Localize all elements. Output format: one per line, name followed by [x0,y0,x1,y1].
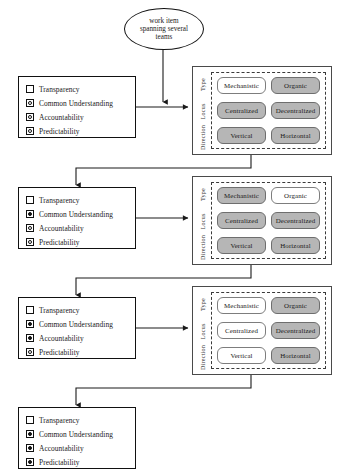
check-label: Common Understanding [39,99,113,108]
matrix-panel-stage-1: Type Locus Direction Mechanistic Organic… [192,66,332,155]
matrix-axis-labels: Type Locus Direction [195,72,211,149]
checkbox-accountability[interactable] [26,444,34,452]
check-row[interactable]: Predictability [26,124,129,138]
cell-horizontal[interactable]: Horizontal [271,237,320,254]
matrix-row-type: Mechanistic Organic [217,297,320,314]
connector-panel3-to-checklist4 [76,375,251,405]
check-row[interactable]: Accountability [26,221,129,235]
checkbox-transparency[interactable] [26,416,34,424]
check-label: Accountability [39,113,84,122]
cell-vertical[interactable]: Vertical [217,127,266,144]
matrix-panel-stage-3: Type Locus Direction Mechanistic Organic… [192,286,332,375]
check-label: Transparency [39,306,80,315]
matrix-panel-stage-2: Type Locus Direction Mechanistic Organic… [192,176,332,265]
check-row[interactable]: Predictability [26,235,129,249]
cell-mechanistic[interactable]: Mechanistic [217,187,266,204]
cell-decentralized[interactable]: Decentralized [271,102,320,119]
check-label: Transparency [39,196,80,205]
cell-mechanistic[interactable]: Mechanistic [217,77,266,94]
check-row[interactable]: Common Understanding [26,317,129,331]
matrix-row-locus: Centralized Decentralized [217,322,320,339]
check-label: Common Understanding [39,210,113,219]
matrix-row-direction: Vertical Horizontal [217,347,320,364]
matrix-grid: Mechanistic Organic Centralized Decentra… [211,292,326,369]
matrix-grid: Mechanistic Organic Centralized Decentra… [211,72,326,149]
axis-label-direction: Direction [199,337,206,379]
source-oval-line-2: spanning several [140,25,188,33]
check-row[interactable]: Transparency [26,193,129,207]
check-label: Predictability [39,127,80,136]
check-row[interactable]: Predictability [26,455,129,469]
checkbox-predictability[interactable] [26,238,34,246]
check-row[interactable]: Accountability [26,331,129,345]
matrix-axis-labels: Type Locus Direction [195,182,211,259]
cell-horizontal[interactable]: Horizontal [271,347,320,364]
matrix-row-type: Mechanistic Organic [217,77,320,94]
check-label: Predictability [39,238,80,247]
cell-centralized[interactable]: Centralized [217,212,266,229]
axis-label-direction: Direction [199,227,206,269]
check-label: Accountability [39,444,84,453]
check-label: Transparency [39,85,80,94]
source-oval-line-3: teams [156,33,173,41]
matrix-row-locus: Centralized Decentralized [217,212,320,229]
check-label: Predictability [39,458,80,467]
checklist-stage-4: Transparency Common Understanding Accoun… [18,407,136,469]
cell-vertical[interactable]: Vertical [217,347,266,364]
cell-organic[interactable]: Organic [271,187,320,204]
source-oval-line-1: work item [149,17,178,25]
checkbox-transparency[interactable] [26,306,34,314]
check-label: Transparency [39,416,80,425]
checkbox-common-understanding[interactable] [26,210,34,218]
checkbox-accountability[interactable] [26,224,34,232]
checkbox-predictability[interactable] [26,458,34,466]
matrix-row-type: Mechanistic Organic [217,187,320,204]
check-row[interactable]: Common Understanding [26,96,129,110]
cell-organic[interactable]: Organic [271,297,320,314]
check-row[interactable]: Transparency [26,82,129,96]
check-label: Accountability [39,334,84,343]
checkbox-common-understanding[interactable] [26,430,34,438]
check-row[interactable]: Transparency [26,413,129,427]
source-oval-text: work item spanning several teams [136,17,192,41]
check-row[interactable]: Common Understanding [26,207,129,221]
checkbox-predictability[interactable] [26,348,34,356]
matrix-grid: Mechanistic Organic Centralized Decentra… [211,182,326,259]
checkbox-common-understanding[interactable] [26,320,34,328]
cell-centralized[interactable]: Centralized [217,102,266,119]
check-row[interactable]: Transparency [26,303,129,317]
diagram-canvas: work item spanning several teams Transpa… [0,0,338,475]
checklist-stage-1: Transparency Common Understanding Accoun… [18,76,136,138]
checklist-stage-3: Transparency Common Understanding Accoun… [18,297,136,359]
checklist-stage-2: Transparency Common Understanding Accoun… [18,187,136,249]
cell-vertical[interactable]: Vertical [217,237,266,254]
check-label: Common Understanding [39,430,113,439]
checkbox-transparency[interactable] [26,85,34,93]
cell-mechanistic[interactable]: Mechanistic [217,297,266,314]
checkbox-common-understanding[interactable] [26,99,34,107]
checkbox-accountability[interactable] [26,334,34,342]
matrix-axis-labels: Type Locus Direction [195,292,211,369]
cell-decentralized[interactable]: Decentralized [271,322,320,339]
check-row[interactable]: Predictability [26,345,129,359]
check-label: Accountability [39,224,84,233]
check-label: Common Understanding [39,320,113,329]
check-row[interactable]: Accountability [26,110,129,124]
checkbox-transparency[interactable] [26,196,34,204]
cell-organic[interactable]: Organic [271,77,320,94]
matrix-row-direction: Vertical Horizontal [217,127,320,144]
check-row[interactable]: Accountability [26,441,129,455]
cell-centralized[interactable]: Centralized [217,322,266,339]
check-label: Predictability [39,348,80,357]
matrix-row-locus: Centralized Decentralized [217,102,320,119]
checkbox-accountability[interactable] [26,113,34,121]
cell-horizontal[interactable]: Horizontal [271,127,320,144]
axis-label-direction: Direction [199,117,206,159]
check-row[interactable]: Common Understanding [26,427,129,441]
checkbox-predictability[interactable] [26,127,34,135]
source-oval: work item spanning several teams [124,8,204,50]
matrix-row-direction: Vertical Horizontal [217,237,320,254]
cell-decentralized[interactable]: Decentralized [271,212,320,229]
